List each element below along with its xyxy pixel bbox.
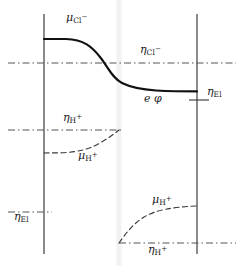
label-mu-h-right: μH+ xyxy=(152,194,172,205)
label-eta-h-right: ηH+ xyxy=(148,244,167,255)
interface-band xyxy=(117,0,122,266)
label-eta-h-left: ηH+ xyxy=(63,112,82,123)
label-eta-el-left: ηEl xyxy=(14,211,29,222)
label-mu-h-left: μH+ xyxy=(78,150,98,161)
diagram-canvas xyxy=(0,0,244,266)
label-eta-cl: ηCl− xyxy=(140,44,161,55)
energy-level-diagram: μCl− ηCl− e φ ηEl ηH+ μH+ ηEl μH+ ηH+ xyxy=(0,0,244,266)
label-e-phi: e φ xyxy=(144,93,162,104)
label-mu-cl-left: μCl− xyxy=(66,12,87,23)
label-eta-el-right: ηEl xyxy=(207,86,222,97)
mu-h-right-curve xyxy=(119,206,197,243)
